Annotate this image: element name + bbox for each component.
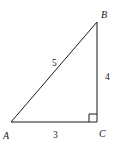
side-label-vertical: 4 (105, 72, 110, 82)
vertex-label-a: A (2, 130, 10, 141)
vertex-label-c: C (99, 128, 106, 139)
side-label-hypotenuse: 5 (52, 58, 57, 68)
geometry-figure: A B C 5 4 3 (0, 0, 116, 147)
side-label-base: 3 (53, 130, 58, 140)
figure-background (0, 0, 116, 147)
vertex-label-b: B (101, 9, 107, 20)
triangle-diagram-svg: A B C 5 4 3 (0, 0, 116, 147)
